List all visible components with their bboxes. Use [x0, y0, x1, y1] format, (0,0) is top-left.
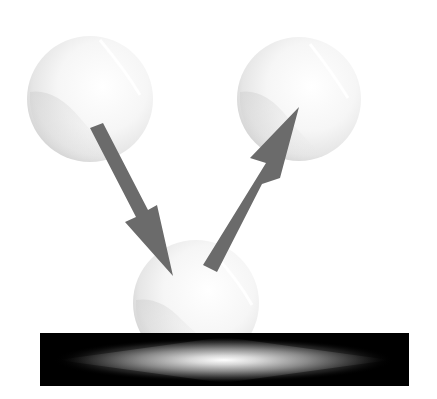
surface-glow: [40, 333, 409, 386]
surface: [40, 333, 409, 386]
ball-incoming: [27, 36, 153, 162]
ball-outgoing: [237, 37, 361, 161]
bounce-diagram: Ball bouncing off a surface: [0, 0, 437, 399]
